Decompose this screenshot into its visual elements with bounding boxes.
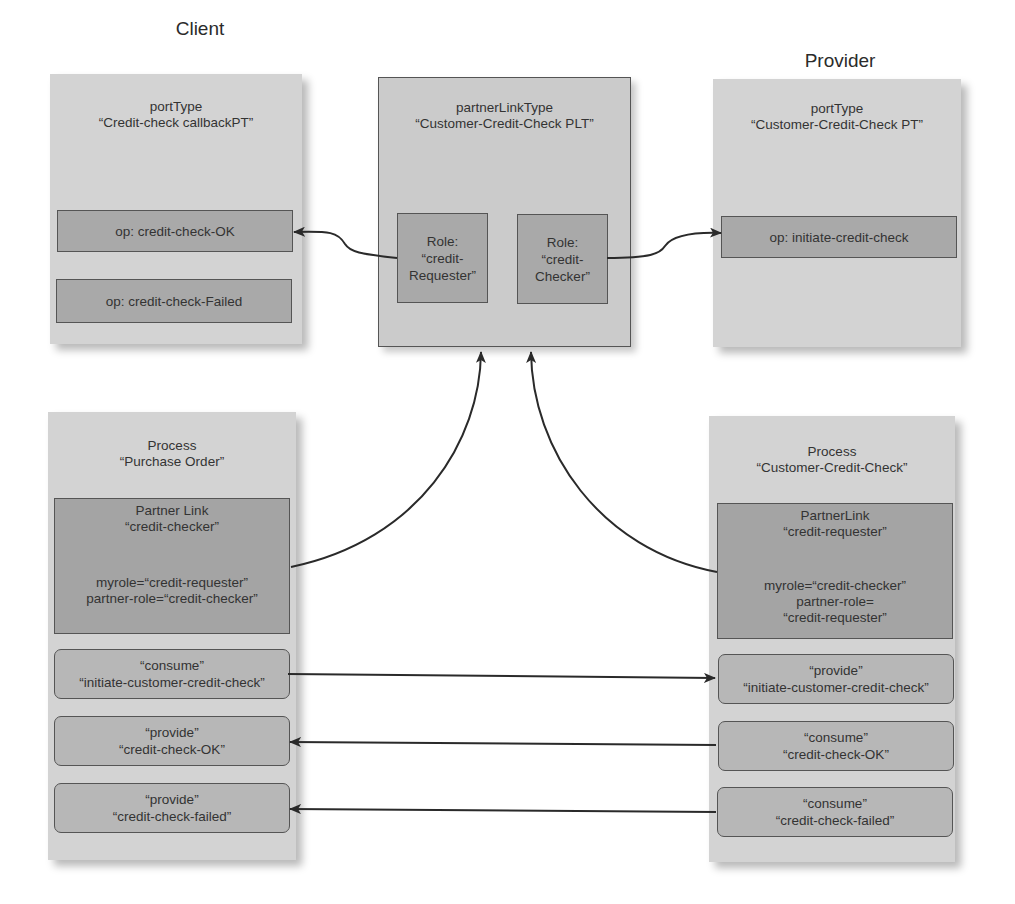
arrow-consume-to-provide-initiate — [288, 674, 715, 678]
role-line: Requester” — [409, 267, 476, 284]
activity-op: “initiate-customer-credit-check” — [743, 679, 928, 696]
plink-myrole: myrole=“credit-checker” — [718, 578, 952, 594]
plt-kind: partnerLinkType — [379, 100, 630, 116]
client-porttype-name: “Credit-check callbackPT” — [50, 115, 302, 131]
op-label: op: initiate-credit-check — [770, 230, 909, 245]
provider-process-kind: Process — [709, 444, 955, 460]
activity-op: “credit-check-OK” — [783, 746, 889, 763]
role-line: “credit- — [535, 251, 590, 268]
arrow-ok-to-client — [290, 742, 716, 745]
activity-op: “credit-check-failed” — [113, 808, 232, 825]
client-op-credit-check-ok[interactable]: op: credit-check-OK — [57, 210, 293, 252]
role-line: “credit- — [409, 250, 476, 267]
provider-process-panel: Process “Customer-Credit-Check” PartnerL… — [709, 416, 955, 862]
role-credit-checker[interactable]: Role: “credit- Checker” — [517, 214, 608, 304]
activity-op: “initiate-customer-credit-check” — [79, 674, 264, 691]
client-activity-consume-initiate[interactable]: “consume” “initiate-customer-credit-chec… — [54, 649, 290, 699]
activity-verb: “consume” — [803, 795, 867, 812]
client-op-credit-check-failed[interactable]: op: credit-check-Failed — [56, 279, 292, 323]
arrow-failed-to-client — [290, 809, 716, 812]
client-partner-link[interactable]: Partner Link “credit-checker” myrole=“cr… — [54, 498, 290, 634]
provider-op-initiate-credit-check[interactable]: op: initiate-credit-check — [721, 216, 957, 258]
client-process-name: “Purchase Order” — [48, 454, 296, 470]
provider-partner-link[interactable]: PartnerLink “credit-requester” myrole=“c… — [717, 503, 953, 639]
op-label: op: credit-check-Failed — [106, 294, 243, 309]
plink-kind: Partner Link — [55, 503, 289, 519]
activity-verb: “consume” — [140, 657, 204, 674]
plink-partner-role-2: “credit-requester” — [718, 610, 952, 626]
client-process-panel: Process “Purchase Order” Partner Link “c… — [48, 412, 296, 860]
plink-partner-role-1: partner-role= — [718, 594, 952, 610]
role-line: Role: — [409, 233, 476, 250]
arrow-provider-plink-to-plt — [531, 352, 717, 572]
role-line: Role: — [535, 234, 590, 251]
activity-op: “credit-check-failed” — [776, 812, 895, 829]
partner-link-type-panel: partnerLinkType “Customer-Credit-Check P… — [378, 77, 631, 347]
activity-verb: “provide” — [145, 724, 198, 741]
provider-porttype-name: “Customer-Credit-Check PT” — [713, 117, 961, 133]
plink-partner-role: partner-role=“credit-checker” — [55, 591, 289, 607]
activity-op: “credit-check-OK” — [119, 741, 225, 758]
activity-verb: “provide” — [809, 662, 862, 679]
plink-myrole: myrole=“credit-requester” — [55, 575, 289, 591]
client-porttype-panel: portType “Credit-check callbackPT” op: c… — [50, 74, 302, 344]
provider-activity-consume-failed[interactable]: “consume” “credit-check-failed” — [717, 787, 953, 837]
client-activity-provide-failed[interactable]: “provide” “credit-check-failed” — [54, 783, 290, 833]
provider-activity-consume-ok[interactable]: “consume” “credit-check-OK” — [718, 721, 954, 771]
plink-name: “credit-requester” — [718, 524, 952, 540]
role-line: Checker” — [535, 268, 590, 285]
provider-porttype-panel: portType “Customer-Credit-Check PT” op: … — [713, 79, 961, 347]
provider-process-name: “Customer-Credit-Check” — [709, 460, 955, 476]
client-column-label: Client — [140, 18, 260, 40]
provider-activity-provide-initiate[interactable]: “provide” “initiate-customer-credit-chec… — [718, 654, 954, 704]
client-activity-provide-ok[interactable]: “provide” “credit-check-OK” — [54, 716, 290, 766]
client-porttype-kind: portType — [50, 99, 302, 115]
role-credit-requester[interactable]: Role: “credit- Requester” — [397, 213, 488, 303]
op-label: op: credit-check-OK — [115, 224, 234, 239]
client-process-kind: Process — [48, 438, 296, 454]
activity-verb: “consume” — [804, 729, 868, 746]
plink-kind: PartnerLink — [718, 508, 952, 524]
plink-name: “credit-checker” — [55, 519, 289, 535]
activity-verb: “provide” — [145, 791, 198, 808]
plt-name: “Customer-Credit-Check PLT” — [379, 116, 630, 132]
provider-porttype-kind: portType — [713, 101, 961, 117]
arrow-client-plink-to-plt — [291, 352, 481, 567]
provider-column-label: Provider — [780, 50, 900, 72]
